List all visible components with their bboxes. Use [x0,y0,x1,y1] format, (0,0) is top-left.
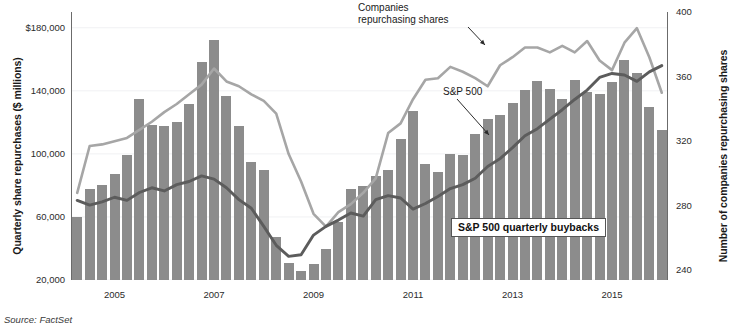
chart-canvas [71,12,668,280]
y-axis-right-tick-label: 360 [676,71,735,82]
y-axis-right-tick-label: 400 [676,6,735,17]
y-axis-left-tick-label: 60,000 [5,211,65,222]
x-axis-tick-label: 2005 [90,289,140,300]
y-axis-right-tick-label: 280 [676,200,735,211]
y-axis-left-tick-label: 100,000 [5,148,65,159]
y-axis-right-title: Number of companies repurchasing shares [717,31,729,281]
plot-area [71,12,668,280]
annotation-sp500: S&P 500 [443,86,482,98]
chart-figure: Quarterly share repurchases ($ millions)… [0,0,735,333]
y-axis-left-tick-label: 20,000 [5,274,65,285]
annotation-companies-repurchasing-shares: Companies repurchasing shares [358,2,449,26]
y-axis-left-tick-label: $180,000 [5,22,65,33]
x-axis-tick-label: 2015 [587,289,637,300]
x-axis-tick-label: 2011 [388,289,438,300]
clipped-figure-title [30,0,33,6]
x-axis-tick-label: 2007 [189,289,239,300]
annotation-quarterly-buybacks: S&P 500 quarterly buybacks [451,218,606,237]
source-note: Source: FactSet [4,314,72,325]
y-axis-left-tick-label: 140,000 [5,85,65,96]
x-axis-tick-label: 2009 [289,289,339,300]
x-axis-tick-label: 2013 [488,289,538,300]
y-axis-right-tick-label: 240 [676,264,735,275]
y-axis-right-tick-label: 320 [676,135,735,146]
